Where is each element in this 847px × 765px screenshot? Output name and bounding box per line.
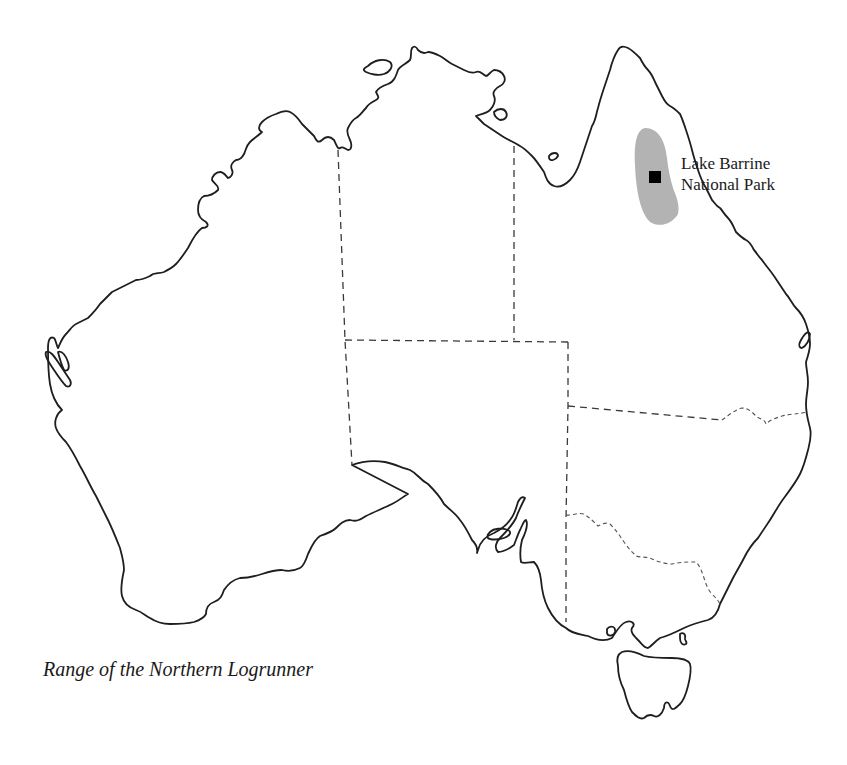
groote-eylandt bbox=[494, 109, 507, 120]
flinders-island bbox=[680, 633, 687, 644]
sa-qld-nsw-border bbox=[566, 342, 568, 622]
tasmania bbox=[617, 651, 691, 718]
park-label-line2: National Park bbox=[681, 174, 775, 195]
mornington-island bbox=[549, 153, 558, 160]
mainland-coastline bbox=[48, 47, 811, 648]
king-island bbox=[607, 627, 615, 636]
melville-island bbox=[364, 60, 392, 75]
wa-nt-border bbox=[338, 150, 352, 465]
map-caption: Range of the Northern Logrunner bbox=[43, 658, 313, 681]
australia-map bbox=[0, 0, 847, 765]
qld-nsw-border-river bbox=[722, 408, 808, 424]
park-label-line1: Lake Barrine bbox=[681, 153, 775, 174]
nsw-vic-border bbox=[566, 513, 720, 604]
qld-nsw-border bbox=[568, 406, 722, 420]
lake-barrine-marker bbox=[649, 171, 661, 183]
nt-sa-border bbox=[345, 340, 568, 342]
park-label: Lake Barrine National Park bbox=[681, 153, 775, 195]
